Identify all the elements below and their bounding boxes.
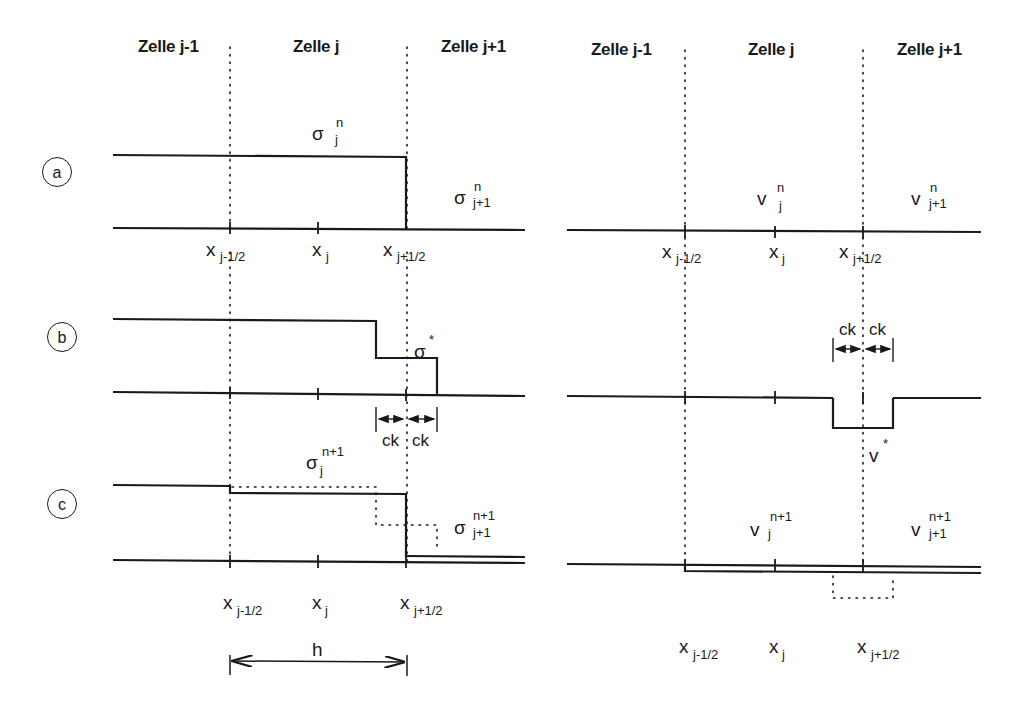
right-cell-boundary-lines — [685, 50, 863, 565]
left-b-ck-left-label: ck — [382, 432, 399, 449]
left-b-ck-right-label: ck — [412, 432, 429, 449]
right-header-cell-j-plus-1: Zelle j+1 — [897, 41, 962, 58]
row-label-a: a — [42, 157, 72, 187]
right-row-b-v-star-profile — [567, 396, 981, 428]
right-header-cell-j-minus-1: Zelle j-1 — [591, 41, 652, 58]
row-label-c: c — [47, 489, 77, 519]
left-row-b-sigma-profile — [113, 319, 525, 396]
right-row-c-v-star-dotted — [833, 576, 893, 598]
right-row-c-velocity-profile — [567, 564, 981, 573]
left-header-cell-j-minus-1: Zelle j-1 — [138, 38, 199, 55]
diagram-canvas — [0, 0, 1020, 709]
row-label-b: b — [47, 322, 77, 352]
right-b-ck-right-label: ck — [869, 321, 886, 338]
right-header-cell-j: Zelle j — [748, 41, 794, 58]
h-width-label: h — [312, 640, 323, 659]
left-header-cell-j: Zelle j — [293, 38, 339, 55]
right-b-ck-left-label: ck — [839, 321, 856, 338]
left-header-cell-j-plus-1: Zelle j+1 — [441, 38, 506, 55]
right-row-a-velocity-axis — [567, 230, 981, 232]
